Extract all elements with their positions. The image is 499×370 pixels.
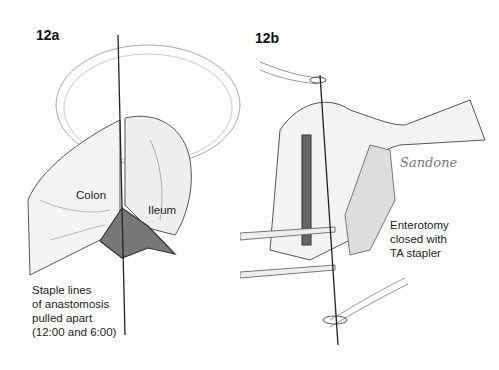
figure-panel-12b: 12b Sandone Enterotomy closed with TA st… [240,0,499,370]
figure-label-12b: 12b [255,30,279,46]
figure-panel-12a: 12a Colon Ileum Staple lines of anastomo… [0,0,250,370]
enterotomy-annotation: Enterotomy closed with TA stapler [390,218,449,260]
enterotomy-closure-illustration [240,0,499,370]
figure-label-12a: 12a [36,27,59,43]
colon-label: Colon [76,188,106,202]
staple-lines-annotation: Staple lines of anastomosis pulled apart… [32,283,116,339]
artist-signature: Sandone [400,155,457,170]
ileum-label: Ileum [148,203,176,217]
